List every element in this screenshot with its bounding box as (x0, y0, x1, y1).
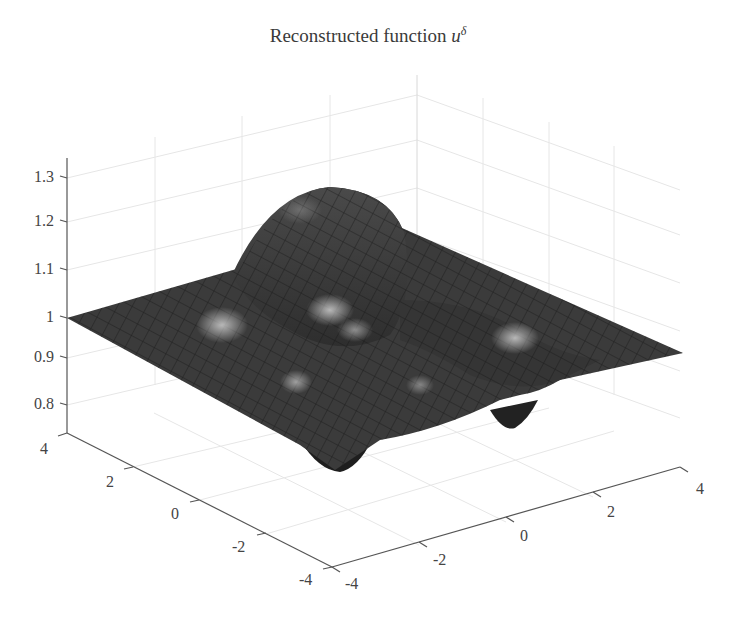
z-tick-label: 1 (14, 308, 54, 326)
x-tick-label: 4 (696, 480, 704, 498)
y-tick-label: -2 (232, 538, 245, 556)
x-tick-label: -2 (433, 551, 446, 569)
surface (67, 187, 683, 472)
y-tick-label: 0 (171, 505, 179, 523)
z-tick-label: 0.8 (14, 395, 54, 413)
z-tick-label: 1.1 (14, 260, 54, 278)
surface-plot (0, 0, 736, 617)
x-tick-label: 2 (607, 503, 615, 521)
z-tick-label: 0.9 (14, 348, 54, 366)
x-tick-label: 0 (520, 527, 528, 545)
chart-title: Reconstructed function uδ (0, 24, 736, 47)
y-tick-label: -4 (299, 571, 312, 589)
z-tick-label: 1.2 (14, 212, 54, 230)
y-tick-label: 2 (106, 473, 114, 491)
z-tick-label: 1.3 (14, 168, 54, 186)
y-axis (67, 433, 332, 567)
y-tick-label: 4 (40, 440, 48, 458)
x-tick-label: -4 (345, 575, 358, 593)
